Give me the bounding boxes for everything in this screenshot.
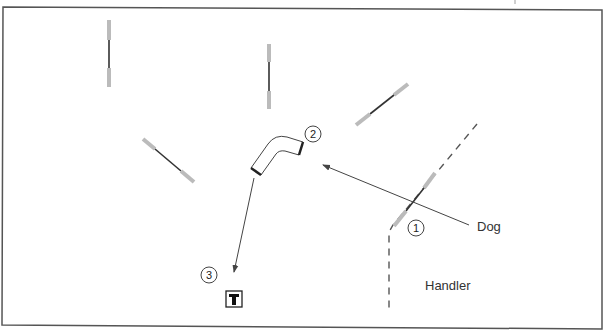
wing-icon (356, 114, 370, 125)
field-border (2, 7, 602, 329)
wing-icon (181, 171, 194, 182)
svg-text:1: 1 (413, 222, 419, 234)
obstacle-number-2: 2 (305, 126, 321, 142)
dog-label: Dog (477, 219, 501, 234)
jump-1[interactable] (394, 173, 435, 226)
obstacle-number-1: 1 (408, 220, 424, 236)
course-diagram: 1 Dog Handler 2 3 (0, 0, 604, 333)
dog-path-arrow-2 (234, 178, 254, 272)
dog-path-arrow (323, 165, 469, 225)
table-3[interactable] (226, 291, 242, 307)
svg-text:3: 3 (206, 269, 212, 281)
obstacle-number-3: 3 (201, 267, 217, 283)
handler-label: Handler (425, 278, 471, 293)
wing-icon (394, 211, 406, 226)
jump-c[interactable] (143, 139, 194, 182)
tunnel-2[interactable] (251, 136, 303, 175)
jump-bar (406, 188, 424, 211)
jump-bar (155, 149, 181, 171)
jump-d[interactable] (356, 84, 408, 125)
wing-icon (424, 173, 435, 188)
svg-text:2: 2 (310, 128, 316, 140)
wing-icon (394, 84, 408, 95)
jump-bar (370, 95, 394, 114)
wing-icon (143, 139, 155, 149)
tunnel-icon (251, 136, 303, 175)
